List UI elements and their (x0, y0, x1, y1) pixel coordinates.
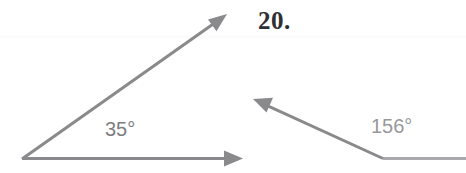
problem-number-label: 20. (258, 8, 291, 33)
obtuse-angle-figure (253, 98, 466, 159)
figure-canvas: 20. 35° 156° (0, 0, 466, 173)
acute-upper-ray-arrowhead-icon (208, 14, 227, 31)
angle-measure-label-156: 156° (371, 116, 412, 136)
obtuse-angle-slanted-ray (253, 98, 383, 159)
obtuse-slanted-ray-arrowhead-icon (253, 98, 273, 113)
acute-horizontal-ray-arrowhead-icon (224, 151, 243, 167)
obtuse-slanted-ray-line (265, 105, 383, 159)
angle-diagram-svg (0, 0, 466, 173)
acute-angle-horizontal-ray (22, 151, 243, 167)
angle-measure-label-35: 35° (105, 119, 135, 139)
